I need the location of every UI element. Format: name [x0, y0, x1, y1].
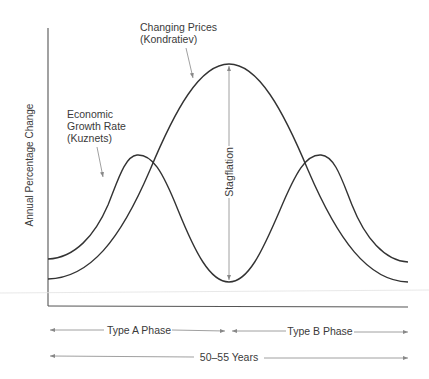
kuznets-pointer-arrow — [97, 147, 103, 177]
kondratiev-label-line1: Changing Prices — [140, 21, 217, 33]
kuznets-label-line1: Economic — [67, 108, 113, 120]
kuznets-label-line3: (Kuznets) — [67, 132, 112, 144]
faint-baseline — [0, 290, 429, 293]
long-wave-diagram: Annual Percentage Change Changing Prices… — [0, 0, 429, 379]
y-axis-label: Annual Percentage Change — [24, 103, 35, 226]
total-years-label: 50–55 Years — [200, 351, 258, 363]
type-a-phase-label: Type A Phase — [107, 324, 171, 336]
kuznets-label-line2: Growth Rate — [67, 120, 126, 132]
kondratiev-label-line2: (Kondratiev) — [140, 33, 197, 45]
type-b-phase-label: Type B Phase — [287, 325, 353, 337]
kondratiev-pointer-arrow — [186, 48, 193, 78]
type-a-arrow-right — [172, 330, 225, 331]
stagflation-label: Stagflation — [223, 147, 235, 197]
total-arrow-left — [50, 356, 194, 357]
x-axis — [48, 306, 408, 307]
